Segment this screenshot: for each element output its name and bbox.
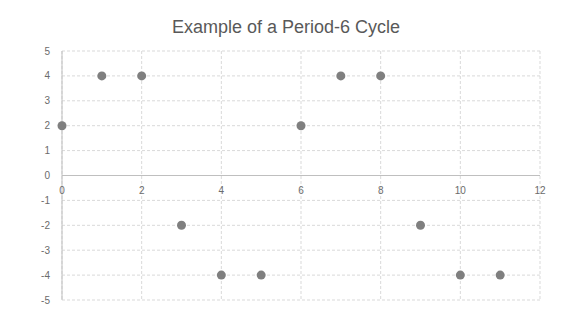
y-tick-label: -3 bbox=[41, 245, 50, 256]
data-point bbox=[217, 271, 226, 280]
y-tick-label: 1 bbox=[44, 145, 50, 156]
y-tick-label: 3 bbox=[44, 95, 50, 106]
y-tick-label: 4 bbox=[44, 70, 50, 81]
x-tick-label: 0 bbox=[59, 185, 65, 196]
data-point bbox=[336, 71, 345, 80]
x-tick-label: 4 bbox=[219, 185, 225, 196]
y-tick-label: 2 bbox=[44, 120, 50, 131]
data-point bbox=[97, 71, 106, 80]
y-tick-label: -4 bbox=[41, 270, 50, 281]
data-point bbox=[58, 121, 67, 130]
data-point bbox=[376, 71, 385, 80]
y-tick-label: -2 bbox=[41, 220, 50, 231]
data-point bbox=[137, 71, 146, 80]
x-tick-label: 8 bbox=[378, 185, 384, 196]
data-point bbox=[416, 221, 425, 230]
x-tick-label: 12 bbox=[534, 185, 546, 196]
x-tick-label: 10 bbox=[455, 185, 467, 196]
y-tick-label: 5 bbox=[44, 46, 50, 57]
data-point bbox=[177, 221, 186, 230]
y-tick-label: 0 bbox=[44, 170, 50, 181]
y-tick-label: -1 bbox=[41, 195, 50, 206]
x-axis-tick-labels: 024681012 bbox=[59, 185, 546, 196]
y-tick-label: -5 bbox=[41, 295, 50, 306]
scatter-plot: 543210-1-2-3-4-5 024681012 bbox=[0, 0, 572, 327]
x-tick-label: 6 bbox=[298, 185, 304, 196]
x-tick-label: 2 bbox=[139, 185, 145, 196]
data-point bbox=[297, 121, 306, 130]
data-point bbox=[496, 271, 505, 280]
data-point bbox=[456, 271, 465, 280]
y-axis-tick-labels: 543210-1-2-3-4-5 bbox=[41, 46, 50, 306]
data-point bbox=[257, 271, 266, 280]
